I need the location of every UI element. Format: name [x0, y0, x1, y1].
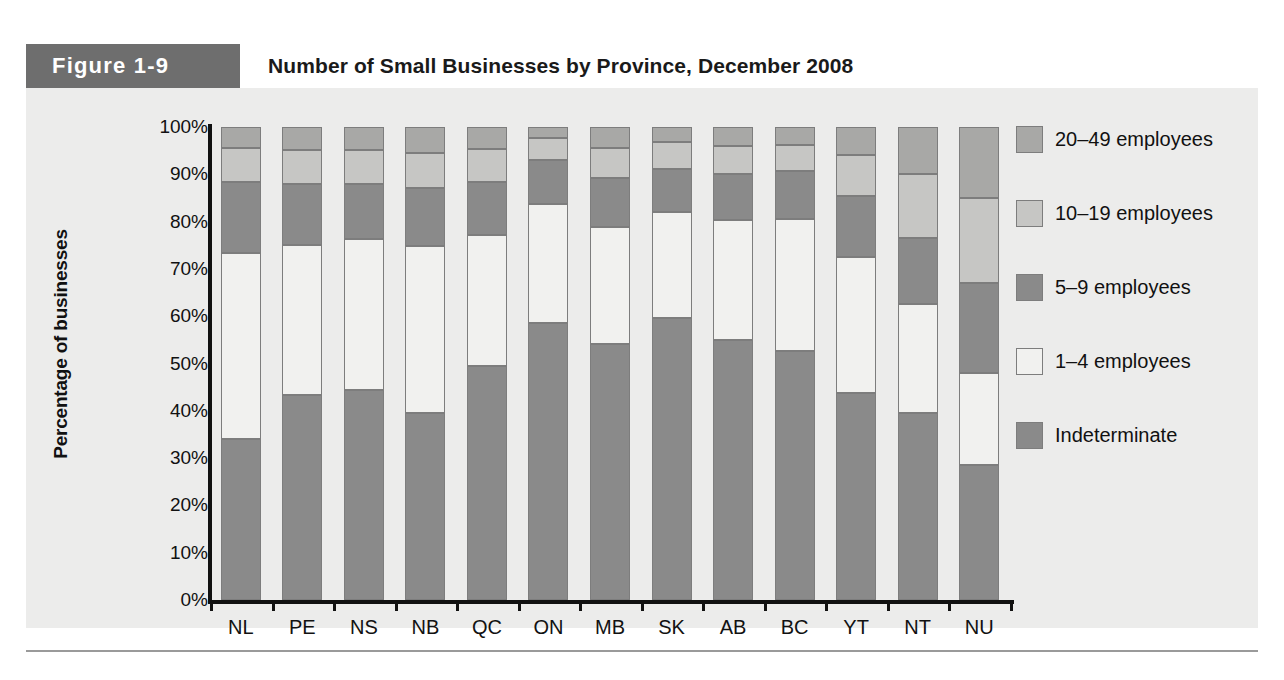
x-tick-label: BC: [781, 616, 809, 639]
legend-item[interactable]: 10–19 employees: [1016, 200, 1213, 227]
bar-segment[interactable]: [959, 283, 999, 373]
bar-segment[interactable]: [652, 318, 692, 600]
bar-segment[interactable]: [282, 245, 322, 395]
stacked-bar[interactable]: [713, 127, 753, 600]
x-tick-label: MB: [595, 616, 625, 639]
bar-segment[interactable]: [221, 127, 261, 148]
bar-segment[interactable]: [282, 150, 322, 184]
legend-swatch-icon: [1016, 126, 1043, 153]
bar-segment[interactable]: [652, 169, 692, 212]
bar-segment[interactable]: [836, 196, 876, 257]
bar-segment[interactable]: [467, 366, 507, 600]
bar-segment[interactable]: [221, 439, 261, 600]
bar-segment[interactable]: [467, 182, 507, 235]
bar-segment[interactable]: [282, 395, 322, 600]
bar-segment[interactable]: [898, 238, 938, 304]
stacked-bar[interactable]: [836, 127, 876, 600]
bar-segment[interactable]: [590, 127, 630, 148]
legend-item[interactable]: 5–9 employees: [1016, 274, 1191, 301]
bar-segment[interactable]: [221, 253, 261, 439]
bar-segment[interactable]: [652, 142, 692, 169]
bar-segment[interactable]: [405, 246, 445, 413]
x-tick-mark: [887, 600, 890, 611]
x-tick-mark: [456, 600, 459, 611]
bar-segment[interactable]: [713, 340, 753, 600]
bar-segment[interactable]: [282, 184, 322, 245]
bar-segment[interactable]: [405, 188, 445, 247]
bar-segment[interactable]: [713, 174, 753, 220]
bar-segment[interactable]: [405, 127, 445, 153]
bar-segment[interactable]: [898, 413, 938, 600]
bar-segment[interactable]: [528, 204, 568, 323]
bar-segment[interactable]: [344, 239, 384, 390]
x-tick-mark: [579, 600, 582, 611]
bar-segment[interactable]: [836, 127, 876, 155]
bar-segment[interactable]: [528, 138, 568, 160]
x-tick-label: NL: [228, 616, 254, 639]
stacked-bar[interactable]: [282, 127, 322, 600]
bar-segment[interactable]: [775, 145, 815, 172]
bar-segment[interactable]: [282, 127, 322, 150]
figure-number-tag: Figure 1-9: [26, 44, 240, 88]
stacked-bar[interactable]: [344, 127, 384, 600]
bar-segment[interactable]: [344, 184, 384, 239]
bar-segment[interactable]: [590, 227, 630, 343]
x-tick-label: NU: [965, 616, 994, 639]
stacked-bar[interactable]: [898, 127, 938, 600]
bar-segment[interactable]: [959, 198, 999, 283]
bar-segment[interactable]: [836, 155, 876, 196]
bar-segment[interactable]: [528, 323, 568, 600]
stacked-bar[interactable]: [467, 127, 507, 600]
bar-segment[interactable]: [344, 150, 384, 184]
x-tick-label: NS: [350, 616, 378, 639]
stacked-bar[interactable]: [590, 127, 630, 600]
x-tick-label: YT: [843, 616, 869, 639]
bar-segment[interactable]: [836, 393, 876, 600]
bar-segment[interactable]: [898, 304, 938, 413]
bar-segment[interactable]: [405, 413, 445, 600]
legend-item[interactable]: Indeterminate: [1016, 422, 1177, 449]
bar-segment[interactable]: [836, 257, 876, 393]
bar-segment[interactable]: [959, 127, 999, 198]
figure-bottom-rule: [26, 650, 1258, 652]
stacked-bar[interactable]: [405, 127, 445, 600]
bar-segment[interactable]: [898, 127, 938, 174]
stacked-bar[interactable]: [221, 127, 261, 600]
stacked-bar[interactable]: [775, 127, 815, 600]
bar-segment[interactable]: [590, 178, 630, 227]
bar-segment[interactable]: [344, 127, 384, 150]
legend-label: 1–4 employees: [1055, 350, 1191, 373]
legend-swatch-icon: [1016, 274, 1043, 301]
bar-segment[interactable]: [713, 146, 753, 174]
bar-segment[interactable]: [775, 351, 815, 600]
bar-segment[interactable]: [775, 219, 815, 351]
bar-segment[interactable]: [405, 153, 445, 188]
bar-segment[interactable]: [775, 171, 815, 218]
stacked-bar[interactable]: [959, 127, 999, 600]
x-tick-mark: [1010, 600, 1013, 611]
bar-segment[interactable]: [344, 390, 384, 600]
legend-item[interactable]: 20–49 employees: [1016, 126, 1213, 153]
legend-item[interactable]: 1–4 employees: [1016, 348, 1191, 375]
bar-segment[interactable]: [713, 220, 753, 340]
bar-segment[interactable]: [467, 127, 507, 149]
bar-segment[interactable]: [590, 344, 630, 600]
bar-segment[interactable]: [959, 465, 999, 600]
bar-segment[interactable]: [467, 149, 507, 182]
legend-label: 20–49 employees: [1055, 128, 1213, 151]
bar-segment[interactable]: [528, 127, 568, 138]
bar-segment[interactable]: [590, 148, 630, 178]
bar-segment[interactable]: [221, 182, 261, 253]
chart-panel: Percentage of businesses 0%10%20%30%40%5…: [26, 88, 1258, 628]
bar-segment[interactable]: [713, 127, 753, 146]
bar-segment[interactable]: [652, 127, 692, 142]
bar-segment[interactable]: [959, 373, 999, 465]
stacked-bar[interactable]: [652, 127, 692, 600]
bar-segment[interactable]: [221, 148, 261, 182]
bar-segment[interactable]: [528, 160, 568, 204]
bar-segment[interactable]: [898, 174, 938, 238]
bar-segment[interactable]: [467, 235, 507, 366]
bar-segment[interactable]: [775, 127, 815, 145]
stacked-bar[interactable]: [528, 127, 568, 600]
bar-segment[interactable]: [652, 212, 692, 318]
